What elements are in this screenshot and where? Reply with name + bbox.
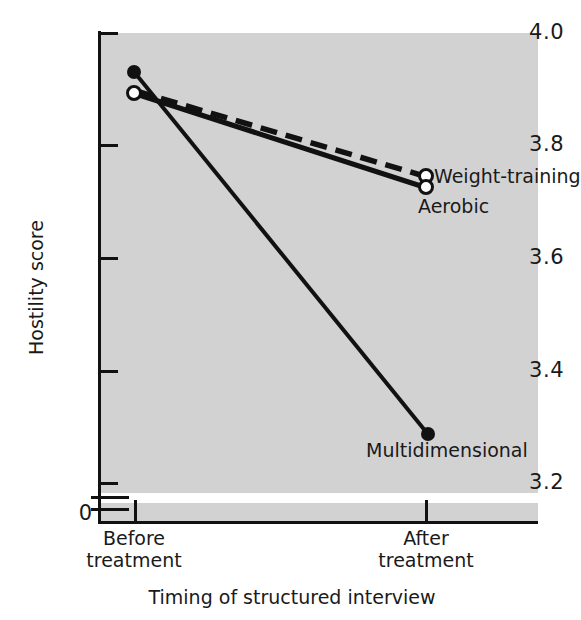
series-line-multidimensional xyxy=(135,73,427,433)
series-label-weight-training: Weight-training xyxy=(434,166,581,186)
series-line-weight-training xyxy=(136,91,424,176)
marker-multidimensional-before xyxy=(127,65,141,79)
series-label-aerobic: Aerobic xyxy=(418,196,489,216)
marker-aerobic-after xyxy=(420,181,433,194)
marker-aerobic-before xyxy=(128,87,141,100)
series-label-multidimensional: Multidimensional xyxy=(366,440,528,460)
series-line-aerobic xyxy=(136,94,424,187)
